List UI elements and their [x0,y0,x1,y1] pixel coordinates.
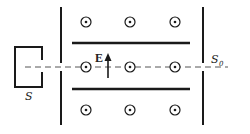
source-label: S [25,90,33,103]
b-field-out-icon [170,17,180,27]
b-field-out-icon [170,62,180,72]
exit-slit-label: S [211,53,219,66]
velocity-selector-diagram: E S S 0 [0,0,250,134]
b-field-out-icon [81,62,91,72]
field-label-e: E [95,51,103,65]
b-field-out-icon [81,105,91,115]
b-field-out-icon [125,17,135,27]
b-field-out-icon [125,105,135,115]
b-field-out-icon [81,17,91,27]
electric-field-arrow-icon [105,53,112,78]
b-field-out-icon [125,62,135,72]
b-field-out-icon [170,105,180,115]
exit-slit-subscript: 0 [219,60,224,68]
magnetic-field-symbols [81,17,180,115]
